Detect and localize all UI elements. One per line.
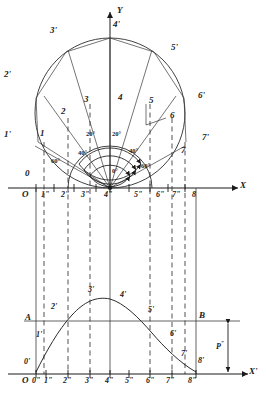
inner-point-5: 5	[149, 96, 154, 105]
upper-origin-label: O	[22, 190, 29, 199]
upper-x-axis-label: X	[240, 181, 246, 190]
angle-right-40: 40°	[129, 148, 138, 155]
lower-tick-4: 4"	[105, 377, 113, 385]
angle-left-60: 60°	[51, 158, 60, 165]
upper-tick-6: 6"	[156, 191, 164, 199]
angle-right-60: 60°	[141, 163, 150, 170]
angle-zero: 0°	[112, 168, 118, 175]
lower-tick-0: 0"	[32, 377, 40, 385]
curve-point-3: 3'	[88, 286, 94, 294]
curve-point-4: 4'	[120, 291, 126, 299]
upper-tick-5: 5"	[134, 191, 142, 199]
lower-tick-8: 8"	[188, 377, 196, 385]
upper-tick-3: 3"	[81, 191, 89, 199]
curve-point-0: 0'	[24, 358, 30, 366]
inner-point-2: 2	[61, 107, 66, 116]
inner-point-4: 4	[118, 93, 123, 102]
upper-tick-8: 8	[192, 191, 196, 199]
upper-tick-2: 2"	[61, 191, 69, 199]
curve-point-8: 8'	[198, 357, 204, 365]
lower-tick-7: 7"	[166, 377, 174, 385]
curve-point-2: 2'	[51, 303, 57, 311]
figure-canvas: Y X X' O O 1" 2" 3" 4" 5" 6" 7" 8 0" 1" …	[0, 0, 266, 398]
lower-tick-1: 1"	[44, 377, 52, 385]
lower-tick-5: 5"	[125, 377, 133, 385]
point-1-prime: 1'	[4, 130, 11, 139]
curve-point-7: 7'	[181, 350, 187, 358]
upper-tick-7: 7"	[172, 191, 180, 199]
lower-tick-2: 2"	[63, 377, 71, 385]
lower-tick-6: 6"	[146, 377, 154, 385]
inner-point-3: 3	[84, 95, 89, 104]
curve-point-6: 6'	[170, 330, 176, 338]
curve-point-1: 1'	[36, 331, 42, 339]
upper-y-axis-label: Y	[117, 6, 123, 15]
point-0-prime: 0	[25, 169, 30, 178]
inner-point-1: 1	[40, 129, 45, 138]
outer-chords	[36, 38, 186, 142]
amplitude-sup: ″	[221, 340, 224, 346]
point-3-prime: 3'	[50, 26, 57, 35]
point-6-prime: 6'	[198, 91, 205, 100]
point-7-prime: 7'	[202, 133, 209, 142]
upper-tick-1: 1"	[41, 191, 49, 199]
lower-tick-3: 3"	[85, 377, 93, 385]
angle-left-40: 40°	[78, 150, 87, 157]
amplitude-label: P″	[216, 340, 224, 351]
chord-label-b: B	[199, 311, 205, 320]
angle-left-20: 20°	[86, 131, 95, 138]
projector-lines	[44, 104, 185, 374]
inner-point-6: 6	[170, 111, 175, 120]
curve-point-5: 5'	[148, 306, 154, 314]
inner-point-7: 7	[181, 146, 186, 155]
chord-label-a: A	[25, 313, 31, 322]
point-2-prime: 2'	[4, 70, 11, 79]
point-4-prime: 4'	[113, 20, 120, 29]
lower-x-axis-label: X'	[249, 367, 258, 376]
upper-tick-4: 4"	[104, 191, 112, 199]
angle-right-20: 20°	[112, 131, 121, 138]
point-5-prime: 5'	[171, 43, 178, 52]
lower-origin-label: O	[22, 376, 29, 385]
